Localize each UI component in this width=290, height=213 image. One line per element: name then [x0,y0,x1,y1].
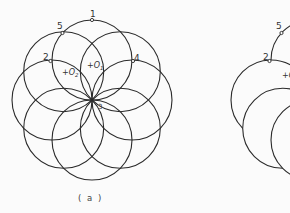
right-label-center-o: +O [282,71,290,80]
label-center-o2: +O2 [62,68,79,78]
layered-circles-right: 5 2 +O [231,20,290,180]
label-point-3: 3 [98,103,102,111]
point-2-marker [49,59,52,62]
label-point-1: 1 [90,9,96,19]
right-label-point-5: 5 [276,21,282,31]
right-label-point-2: 2 [263,52,269,62]
point-5-marker [61,31,64,34]
point-3-marker [90,98,93,101]
label-point-2: 2 [43,52,49,62]
label-center-o1: +O1 [87,61,104,71]
right-point-5-marker [280,31,283,34]
rosette-diagram: 1 5 2 4 3 +O1 +O2 ( a ) 5 2 +O [0,0,290,213]
label-point-5: 5 [57,21,63,31]
rosette-left: 1 5 2 4 3 +O1 +O2 ( a ) [12,9,172,203]
caption-a: ( a ) [78,193,103,203]
label-point-4: 4 [134,53,140,63]
